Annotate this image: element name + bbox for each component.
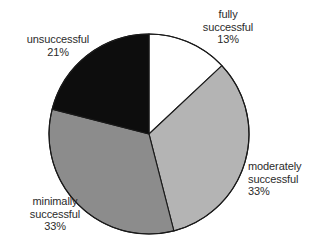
pie-label-unsuccessful: unsuccessful 21%: [2, 33, 114, 58]
pie-label-fully-successful-line1: fully: [182, 8, 274, 21]
pie-label-moderately-successful-line1: moderately: [248, 160, 325, 173]
pie-label-minimally-successful-line2: successful: [6, 208, 104, 221]
pie-label-fully-successful-value: 13%: [182, 33, 274, 46]
pie-label-moderately-successful-line2: successful: [248, 173, 325, 186]
pie-label-unsuccessful-value: 21%: [2, 46, 114, 59]
pie-label-minimally-successful-value: 33%: [6, 220, 104, 233]
pie-label-minimally-successful: minimally successful 33%: [6, 195, 104, 233]
pie-label-moderately-successful-value: 33%: [248, 185, 325, 198]
pie-label-fully-successful-line2: successful: [182, 21, 274, 34]
pie-label-fully-successful: fully successful 13%: [182, 8, 274, 46]
pie-chart: fully successful 13% unsuccessful 21% mo…: [0, 0, 325, 251]
pie-label-unsuccessful-line1: unsuccessful: [2, 33, 114, 46]
pie-label-minimally-successful-line1: minimally: [6, 195, 104, 208]
pie-label-moderately-successful: moderately successful 33%: [248, 160, 325, 198]
